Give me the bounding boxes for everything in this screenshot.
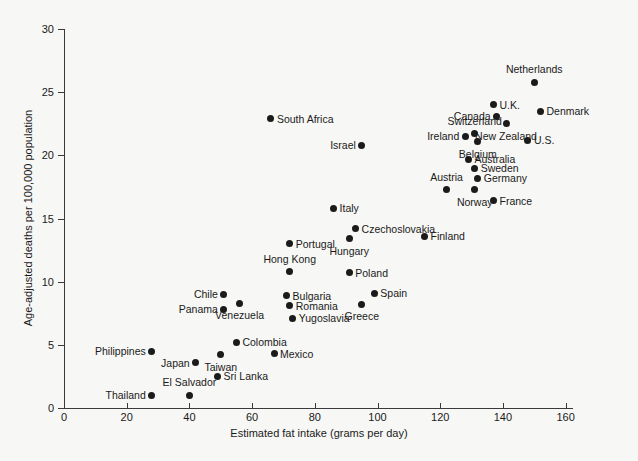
data-point[interactable] <box>503 120 510 127</box>
data-point-label: South Africa <box>277 113 334 124</box>
y-tick-mark <box>58 345 64 346</box>
data-point-label: Panama <box>179 304 218 315</box>
x-tick-mark <box>315 403 316 409</box>
y-axis-line <box>64 29 65 409</box>
data-point[interactable] <box>148 392 155 399</box>
data-point[interactable] <box>286 268 293 275</box>
data-point-label: Denmark <box>547 106 590 117</box>
x-tick-mark <box>503 403 504 409</box>
x-tick-label: 40 <box>183 412 195 423</box>
data-point[interactable] <box>220 291 227 298</box>
y-tick-label: 10 <box>42 277 54 288</box>
y-tick-label: 30 <box>42 24 54 35</box>
x-tick-label: 160 <box>556 412 574 423</box>
data-point[interactable] <box>474 175 481 182</box>
y-tick-mark <box>58 282 64 283</box>
data-point[interactable] <box>286 302 293 309</box>
data-point-label: Mexico <box>280 348 313 359</box>
data-point-label: Netherlands <box>506 64 563 75</box>
x-tick-label: 20 <box>121 412 133 423</box>
data-point[interactable] <box>358 142 365 149</box>
y-tick-mark <box>58 219 64 220</box>
x-tick-mark <box>440 403 441 409</box>
data-point[interactable] <box>330 205 337 212</box>
data-point[interactable] <box>289 315 296 322</box>
data-point[interactable] <box>236 300 243 307</box>
x-tick-mark <box>127 403 128 409</box>
data-point-label: U.K. <box>499 99 519 110</box>
data-point[interactable] <box>493 113 500 120</box>
data-point[interactable] <box>267 115 274 122</box>
x-axis-title: Estimated fat intake (grams per day) <box>0 427 638 439</box>
data-point[interactable] <box>346 269 353 276</box>
y-axis-title: Age-adjusted deaths per 100,000 populati… <box>22 53 34 383</box>
data-point-label: New Zealand <box>475 131 537 142</box>
data-point-label: Japan <box>161 357 190 368</box>
data-point[interactable] <box>352 225 359 232</box>
data-point[interactable] <box>192 359 199 366</box>
data-point-label: Taiwan <box>204 362 237 373</box>
data-point[interactable] <box>271 350 278 357</box>
data-point-label: France <box>499 195 532 206</box>
data-point[interactable] <box>490 197 497 204</box>
y-tick-label: 5 <box>48 340 54 351</box>
x-tick-label: 140 <box>494 412 512 423</box>
x-tick-mark <box>189 403 190 409</box>
data-point-label: Spain <box>380 288 407 299</box>
data-point[interactable] <box>217 351 224 358</box>
data-point[interactable] <box>233 339 240 346</box>
data-point-label: Hungary <box>329 246 369 257</box>
data-point-label: Colombia <box>242 337 286 348</box>
data-point[interactable] <box>490 101 497 108</box>
data-point[interactable] <box>471 165 478 172</box>
data-point-label: Philippines <box>95 346 146 357</box>
data-point-label: Israel <box>330 140 356 151</box>
data-point[interactable] <box>421 233 428 240</box>
data-point[interactable] <box>148 348 155 355</box>
data-point[interactable] <box>358 301 365 308</box>
data-point[interactable] <box>283 292 290 299</box>
data-point[interactable] <box>186 392 193 399</box>
y-tick-mark <box>58 92 64 93</box>
data-point[interactable] <box>443 186 450 193</box>
scatter-plot-figure: 051015202530 020406080100120140160 Thail… <box>0 0 638 461</box>
data-point[interactable] <box>214 373 221 380</box>
x-tick-mark <box>566 403 567 409</box>
data-point[interactable] <box>471 186 478 193</box>
data-point-label: Venezuela <box>215 310 264 321</box>
data-point-label: El Salvador <box>163 377 217 388</box>
data-point-label: Germany <box>484 173 527 184</box>
data-point-label: Canada <box>454 111 491 122</box>
data-point-label: Poland <box>355 267 388 278</box>
data-point-label: Chile <box>194 289 218 300</box>
x-tick-mark <box>252 403 253 409</box>
data-point-label: Yugoslavia <box>299 313 350 324</box>
x-tick-label: 60 <box>246 412 258 423</box>
data-point-label: Italy <box>340 203 359 214</box>
data-point-label: Greece <box>345 311 379 322</box>
data-point-label: Thailand <box>105 390 145 401</box>
x-tick-label: 80 <box>309 412 321 423</box>
x-tick-label: 120 <box>431 412 449 423</box>
data-point-label: Austria <box>430 172 463 183</box>
data-point[interactable] <box>286 240 293 247</box>
data-point[interactable] <box>531 79 538 86</box>
data-point-label: Ireland <box>427 131 459 142</box>
y-tick-label: 25 <box>42 87 54 98</box>
x-tick-label: 100 <box>368 412 386 423</box>
y-tick-mark <box>58 155 64 156</box>
x-axis-line <box>64 408 573 409</box>
y-tick-label: 15 <box>42 214 54 225</box>
y-tick-label: 20 <box>42 150 54 161</box>
data-point-label: Romania <box>296 300 338 311</box>
data-point[interactable] <box>462 133 469 140</box>
data-point-label: Finland <box>431 231 465 242</box>
y-tick-mark <box>58 29 64 30</box>
x-tick-mark <box>378 403 379 409</box>
data-point-label: Norway <box>457 197 493 208</box>
y-tick-label: 0 <box>48 403 54 414</box>
data-point[interactable] <box>537 108 544 115</box>
data-point[interactable] <box>346 235 353 242</box>
data-point-label: Hong Kong <box>263 254 316 265</box>
data-point[interactable] <box>371 290 378 297</box>
